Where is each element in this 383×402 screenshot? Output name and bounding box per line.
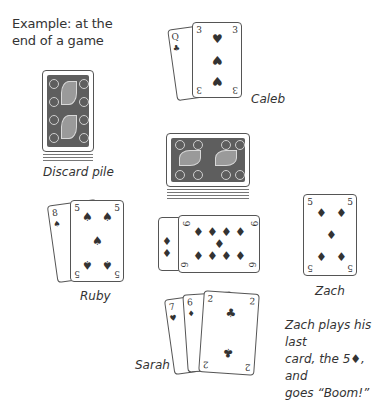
zach-card: 5 5 5 5 ♦ ♦ ♦ ♦ ♦ — [303, 194, 357, 276]
card-rank: 9 — [181, 261, 190, 269]
diamond-icon: ♦ — [336, 207, 347, 219]
stack-edge — [43, 160, 93, 161]
playing-card: 9 9 9 9 ♦ ♦ ♦ ♦ ♦ ♦ ♦ ♦ ♦ — [178, 215, 260, 273]
club-icon: ♣ — [172, 42, 181, 55]
diamond-icon: ♦ — [235, 250, 246, 262]
diamond-icon: ♦ — [207, 250, 218, 262]
club-icon: ♣ — [222, 347, 234, 360]
stack-edge — [43, 154, 93, 155]
note-line-3: goes “Boom!” — [285, 385, 383, 402]
card-rank: 3 — [195, 26, 203, 35]
card-rank: 3 — [231, 85, 239, 94]
card-rank: Q — [171, 32, 180, 42]
spade-icon: ♠ — [82, 211, 93, 223]
card-rank: 5 — [113, 269, 121, 278]
caleb-label: Caleb — [251, 92, 285, 106]
diamond-icon: ♦ — [316, 251, 327, 263]
discard-pile-label: Discard pile — [43, 165, 114, 179]
diamond-icon: ♦ — [336, 251, 347, 263]
spade-icon: ♠ — [92, 235, 103, 247]
diamond-icon: ♦ — [235, 226, 246, 238]
stack-edge — [167, 198, 249, 199]
diamond-icon: ♦ — [316, 207, 327, 219]
card-rank: 3 — [195, 85, 203, 94]
heart-icon: ♥ — [212, 33, 223, 45]
card-rank: 5 — [346, 263, 354, 272]
ruby-label: Ruby — [80, 289, 111, 303]
heart-icon: ♥ — [212, 75, 223, 87]
card-rank: 5 — [73, 269, 81, 278]
club-icon: ♣ — [225, 307, 237, 320]
card-back — [42, 70, 94, 152]
stack-edge — [43, 157, 93, 158]
heart-icon: ♥ — [169, 312, 178, 325]
card-rank: 9 — [181, 220, 190, 228]
diamond-icon: ♦ — [221, 250, 232, 262]
card-rank: 6 — [186, 298, 195, 308]
card-rank: 5 — [113, 204, 121, 213]
diamond-icon: ♦ — [193, 250, 204, 262]
playing-card: 2 2 2 2 ♣ ♣ — [198, 290, 260, 376]
diamond-icon: ♦ — [162, 248, 172, 260]
diamond-icon: ♦ — [326, 229, 337, 241]
card-back — [166, 133, 250, 187]
card-rank: 2 — [248, 297, 257, 307]
zach-label: Zach — [315, 284, 345, 298]
ruby-hand: 8 ♠ 5 5 5 5 ♠ ♠ ♠ ♠ ♠ — [50, 196, 130, 291]
stack-edge — [167, 195, 249, 196]
spade-icon: ♠ — [82, 259, 93, 271]
note-line-2: card, the 5♦, and — [285, 351, 383, 385]
discard-pile — [42, 70, 94, 162]
spade-icon: ♠ — [102, 211, 113, 223]
card-rank: 5 — [306, 198, 314, 207]
caption-line-1: Example: at the — [12, 15, 112, 32]
spade-icon: ♠ — [102, 259, 113, 271]
played-cards: ♦ ♦ 9 9 9 9 ♦ ♦ ♦ ♦ ♦ ♦ ♦ ♦ ♦ — [158, 215, 263, 275]
stack-edge — [167, 189, 249, 190]
spade-icon: ♠ — [53, 218, 62, 231]
draw-pile — [166, 133, 250, 203]
card-rank: 5 — [306, 263, 314, 272]
stack-edge — [167, 192, 249, 193]
caption-line-2: end of a game — [12, 32, 112, 49]
card-rank: 5 — [346, 198, 354, 207]
card-rank: 5 — [73, 204, 81, 213]
card-rank: 2 — [201, 359, 210, 369]
playing-card: 3 3 3 3 ♥ ♥ ♥ — [192, 22, 242, 98]
caleb-hand: Q ♣ 3 3 3 3 ♥ ♥ ♥ — [170, 18, 250, 108]
heart-icon: ♥ — [212, 54, 223, 66]
card-rank: 2 — [243, 362, 252, 372]
card-rank: 3 — [231, 26, 239, 35]
card-rank: 2 — [206, 294, 215, 304]
sarah-label: Sarah — [135, 358, 170, 372]
example-caption: Example: at the end of a game — [12, 15, 112, 49]
playing-card: 5 5 5 5 ♠ ♠ ♠ ♠ ♠ — [70, 200, 124, 282]
explanation-note: Zach plays his last card, the 5♦, and go… — [285, 317, 383, 402]
card-rank: 9 — [249, 220, 258, 228]
note-line-1: Zach plays his last — [285, 317, 383, 351]
card-rank: 9 — [249, 261, 258, 269]
diamond-icon: ♦ — [193, 226, 204, 238]
card-rank: 8 — [50, 208, 59, 218]
card-rank: 7 — [167, 302, 176, 312]
sarah-hand: 7 ♥ 6 ♦ 2 2 2 2 ♣ ♣ — [165, 290, 270, 378]
diamond-icon: ♦ — [187, 308, 195, 320]
